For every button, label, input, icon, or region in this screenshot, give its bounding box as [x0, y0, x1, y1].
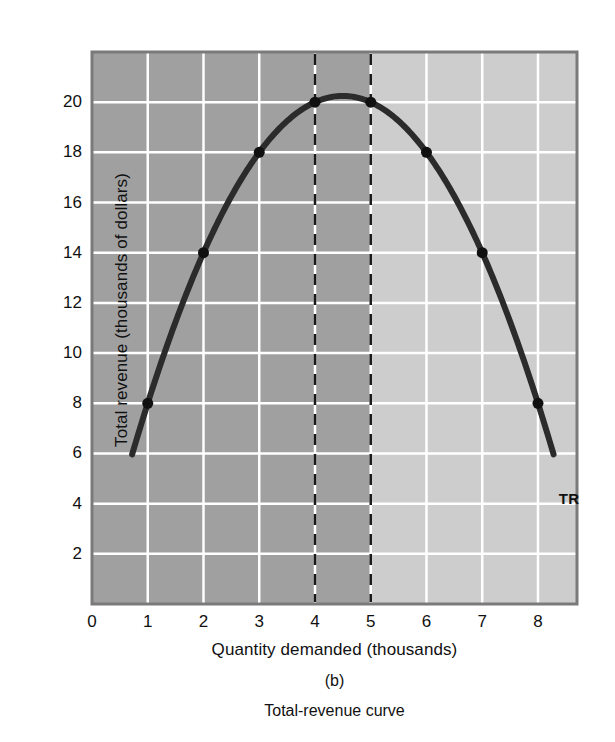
x-axis-title: Quantity demanded (thousands) — [92, 640, 577, 660]
y-tick-label: 4 — [30, 494, 82, 514]
data-point-marker — [365, 97, 376, 108]
data-point-marker — [309, 97, 320, 108]
data-point-marker — [198, 247, 209, 258]
x-tick-label: 0 — [75, 612, 109, 632]
data-point-marker — [254, 147, 265, 158]
region-elastic — [92, 52, 371, 604]
data-point-marker — [532, 398, 543, 409]
y-tick-label: 12 — [30, 293, 82, 313]
x-tick-label: 8 — [521, 612, 555, 632]
y-axis-title: Total revenue (thousands of dollars) — [112, 100, 132, 520]
x-tick-label: 7 — [465, 612, 499, 632]
x-tick-label: 4 — [298, 612, 332, 632]
y-tick-label: 2 — [30, 544, 82, 564]
data-point-marker — [142, 398, 153, 409]
x-tick-label: 5 — [354, 612, 388, 632]
y-tick-label: 18 — [30, 142, 82, 162]
y-tick-label: 20 — [30, 92, 82, 112]
y-tick-label: 8 — [30, 393, 82, 413]
panel-letter: (b) — [92, 672, 577, 690]
x-tick-label: 3 — [242, 612, 276, 632]
figure-caption: Total-revenue curve — [92, 702, 577, 720]
x-tick-label: 6 — [409, 612, 443, 632]
x-tick-label: 2 — [186, 612, 220, 632]
data-point-marker — [477, 247, 488, 258]
region-inelastic — [371, 52, 577, 604]
y-tick-label: 14 — [30, 243, 82, 263]
y-tick-label: 6 — [30, 443, 82, 463]
x-tick-label: 1 — [131, 612, 165, 632]
total-revenue-chart-figure: 2468101214161820 012345678 Total revenue… — [0, 0, 615, 742]
data-point-marker — [421, 147, 432, 158]
tr-series-label: TR — [559, 490, 580, 507]
y-tick-label: 16 — [30, 193, 82, 213]
plot-background-regions — [92, 52, 577, 604]
y-tick-label: 10 — [30, 343, 82, 363]
